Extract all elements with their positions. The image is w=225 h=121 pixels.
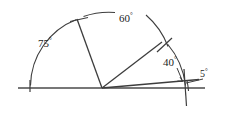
degree-symbol-40: ° [174,55,177,63]
angle-value-60: 60 [119,12,130,24]
angle-label-5: 5° [200,68,208,79]
degree-symbol-75: ° [49,36,52,44]
angle-label-60: 60° [119,12,133,24]
angle-value-75: 75 [38,37,49,49]
angle-label-75: 75° [38,37,52,49]
angle-diagram: 75° 60° 40° 5° [0,0,225,121]
degree-symbol-5: ° [205,67,208,75]
angle-label-40: 40° [163,56,177,68]
arc-75-degree [31,20,77,86]
leader-40-degree-arrow [178,77,183,82]
tick-ray-75-tip [70,18,88,22]
arc-60-degree-left [84,12,116,16]
angle-value-40: 40 [163,56,174,68]
tick-ray-40-tip [157,38,172,52]
diagram-canvas [0,0,225,121]
ray-75-degree [77,19,102,88]
degree-symbol-60: ° [130,11,133,19]
arc-60-degree-right [146,15,168,47]
ray-40-degree [102,42,162,88]
